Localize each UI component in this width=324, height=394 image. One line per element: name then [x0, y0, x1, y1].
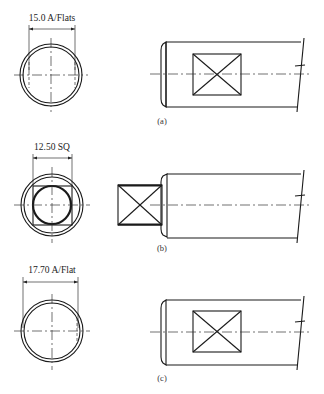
technical-drawing: 15.0 A/Flats (a)	[0, 0, 324, 394]
dimension-label-b: 12.50 SQ	[34, 142, 70, 152]
shaft-chamfer-end	[161, 42, 166, 107]
break-tick	[295, 321, 305, 322]
break-line	[297, 170, 304, 243]
break-line	[297, 38, 304, 112]
break-line	[297, 296, 304, 370]
arrow-icon	[33, 157, 37, 160]
arrow-icon	[29, 28, 33, 31]
end-view-a: 15.0 A/Flats	[14, 13, 88, 112]
end-view-c: 17.70 A/Flat	[14, 265, 90, 370]
arrow-icon	[68, 157, 72, 160]
dimension-label-a: 15.0 A/Flats	[29, 13, 76, 23]
view-label-a: (a)	[157, 116, 167, 126]
view-label-c: (c)	[157, 373, 167, 383]
break-tick	[295, 195, 305, 196]
arrow-icon	[23, 281, 27, 284]
arrow-icon	[71, 28, 75, 31]
side-view-b	[118, 170, 312, 243]
view-a: 15.0 A/Flats (a)	[14, 13, 312, 126]
break-tick	[295, 65, 305, 66]
view-c: 17.70 A/Flat (c)	[14, 265, 312, 383]
end-view-b: 12.50 SQ	[14, 142, 90, 243]
view-label-b: (b)	[157, 243, 167, 253]
side-view-c	[150, 296, 312, 370]
shaft-chamfer-end	[161, 300, 166, 365]
side-view-a	[150, 38, 312, 112]
view-b: 12.50 SQ (b)	[14, 142, 312, 253]
arrow-icon	[74, 281, 78, 284]
dimension-label-c: 17.70 A/Flat	[28, 265, 76, 275]
